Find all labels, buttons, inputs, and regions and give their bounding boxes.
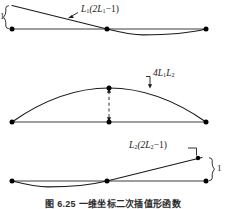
panel-3-leader-line bbox=[188, 148, 197, 156]
panel-3-leader-endpoint bbox=[196, 156, 200, 160]
panel-1-node-left bbox=[10, 27, 15, 32]
panel-3-amplitude-brace bbox=[210, 158, 215, 181]
panel-1-node-right bbox=[204, 27, 209, 32]
panel-2-group bbox=[10, 77, 209, 125]
panel-2-function-label: 4L1L2 bbox=[153, 69, 175, 79]
panel-2-node-mid-peak bbox=[107, 86, 112, 91]
panel-2-leader-arrowhead bbox=[148, 84, 152, 88]
shape-function-plots bbox=[0, 0, 226, 209]
figure-caption: 图 6.25 一维坐标二次插值形函数 bbox=[0, 197, 226, 209]
panel-3-function-label: L2(2L2−1) bbox=[129, 141, 167, 151]
panel-1-amplitude-label: 1 bbox=[0, 12, 5, 21]
panel-1-node-mid bbox=[105, 27, 110, 32]
panel-1-function-label: L1(2L1−1) bbox=[81, 5, 119, 15]
panel-2-node-right bbox=[204, 120, 209, 125]
panel-3-node-left bbox=[10, 179, 15, 184]
panel-3-group bbox=[10, 148, 215, 187]
figure-container: L1(2L1−1) 1 4L1L2 L2(2L2−1) 1 图 6.25 一维坐… bbox=[0, 0, 226, 209]
panel-3-node-mid bbox=[105, 179, 110, 184]
panel-3-amplitude-label: 1 bbox=[217, 164, 222, 173]
panel-2-node-mid-base bbox=[107, 120, 112, 125]
panel-2-node-left bbox=[10, 120, 15, 125]
panel-3-node-right bbox=[204, 179, 209, 184]
